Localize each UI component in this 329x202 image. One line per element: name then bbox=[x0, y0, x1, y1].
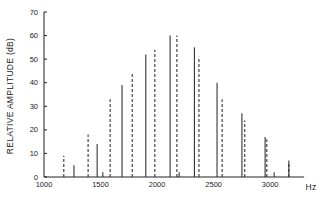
y-tick-label: 30 bbox=[30, 102, 38, 111]
y-tick-label: 40 bbox=[30, 78, 38, 87]
spectral-lines bbox=[64, 36, 289, 177]
x-tick-label: 1500 bbox=[92, 180, 109, 189]
y-tick-label: 10 bbox=[30, 149, 38, 158]
y-tick-label: 60 bbox=[30, 31, 38, 40]
axis-ticks: 01020304050607010001500200025003000 bbox=[30, 8, 279, 189]
y-tick-label: 20 bbox=[30, 125, 38, 134]
y-tick-label: 50 bbox=[30, 55, 38, 64]
x-axis-unit-label: Hz bbox=[306, 182, 317, 192]
y-axis-title: RELATIVE AMPLITUDE (dB) bbox=[5, 38, 15, 154]
x-tick-label: 2000 bbox=[149, 180, 166, 189]
x-tick-label: 1000 bbox=[36, 180, 53, 189]
x-tick-label: 2500 bbox=[205, 180, 222, 189]
spectrum-chart: 01020304050607010001500200025003000 RELA… bbox=[0, 0, 329, 202]
y-tick-label: 70 bbox=[30, 8, 38, 17]
x-tick-label: 3000 bbox=[262, 180, 279, 189]
